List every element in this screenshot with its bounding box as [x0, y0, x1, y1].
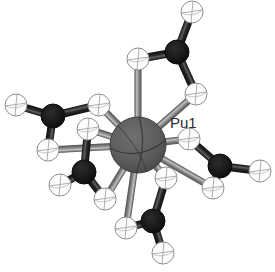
atom-C5: [208, 154, 232, 178]
atom-H9: [94, 188, 116, 210]
atom-C2: [41, 104, 65, 128]
atom-Pu1: [110, 117, 166, 173]
atom-H6: [37, 139, 59, 161]
atom-H3: [185, 83, 207, 105]
atom-H13: [178, 128, 200, 150]
atom-H5: [88, 94, 110, 116]
atom-H7: [77, 118, 99, 140]
atom-label-pu1: Pu1: [170, 114, 197, 131]
atom-H14: [249, 160, 271, 182]
atom-H8: [49, 174, 71, 196]
atom-H1: [181, 1, 203, 23]
atom-H12: [155, 167, 177, 189]
molecular-structure-figure: Pu1: [0, 0, 275, 272]
atom-H4: [5, 94, 27, 116]
atom-H10: [115, 217, 137, 239]
molecule-canvas: [0, 0, 275, 272]
atom-H2: [127, 48, 149, 70]
atom-C3: [72, 160, 96, 184]
figure-caption-fragment: [32, 256, 38, 264]
atom-C1: [165, 40, 189, 64]
atom-H11: [152, 242, 174, 264]
atom-C4: [141, 209, 165, 233]
atom-H15: [202, 177, 224, 199]
